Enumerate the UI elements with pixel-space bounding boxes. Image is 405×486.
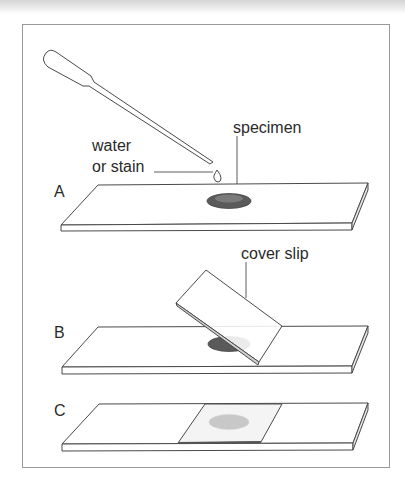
step-a: water or stain specimen A [43,50,368,231]
specimen-highlight [215,195,243,203]
specimen-icon [209,415,249,430]
water-label-line2: or stain [92,158,144,175]
step-c-label: C [54,402,66,419]
drop-icon [214,170,221,182]
water-label-line1: water [91,137,132,154]
cover-slip-label: cover slip [241,245,309,262]
step-b: cover slip B [54,245,368,374]
specimen-label: specimen [233,119,301,136]
step-b-label: B [54,324,65,341]
step-c: C [54,402,368,451]
step-a-label: A [54,183,65,200]
slide-preparation-diagram: water or stain specimen A cover slip [0,0,405,486]
